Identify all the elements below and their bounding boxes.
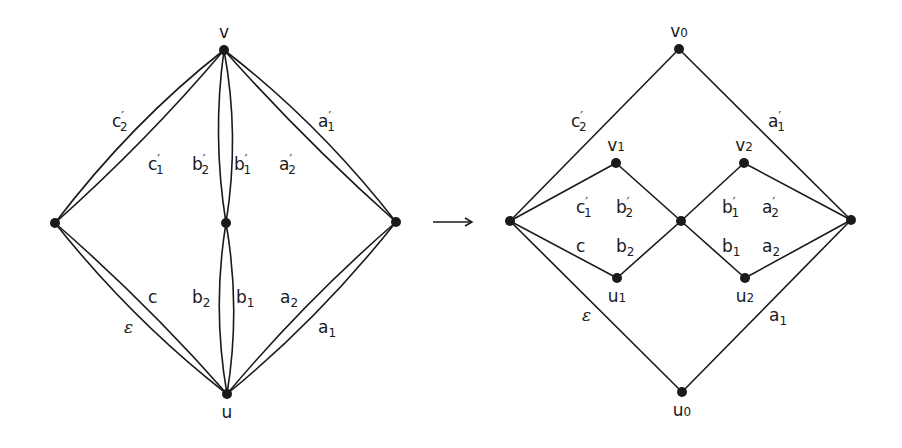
right-edge-label: b′2 (616, 195, 633, 220)
right-vertex-u0 (677, 387, 687, 397)
right-vertex-label-u0: u0 (673, 400, 691, 420)
right-edge-label: a′1 (768, 109, 785, 134)
transformation-arrow (433, 218, 472, 226)
right-vertex-v2 (739, 158, 749, 168)
right-edge-label: a1 (769, 305, 787, 328)
left-edge-label: a′2 (279, 152, 296, 177)
right-vertex-label-v0: v0 (670, 21, 688, 41)
right-vertex-u1 (612, 273, 622, 283)
right-edge-label: c′1 (576, 195, 592, 220)
right-vertex-middle (676, 216, 686, 226)
right-edge-label: c′2 (571, 109, 587, 134)
left-edge-label: b1 (236, 287, 254, 310)
right-vertex-v0 (674, 44, 684, 54)
right-vertex-left (505, 216, 515, 226)
right-edge-label: b2 (616, 236, 634, 259)
right-vertex-right (846, 215, 856, 225)
left-vertex-u (222, 389, 232, 399)
left-edge-label: a′1 (318, 109, 335, 134)
right-vertex-label-u2: u2 (736, 286, 754, 306)
left-vertex-right (391, 217, 401, 227)
right-edge-label: b′1 (722, 195, 739, 220)
right-edge-label: a2 (762, 236, 780, 259)
left-vertex-middle (221, 218, 231, 228)
right-vertex-label-v2: v2 (735, 135, 753, 155)
left-graph-vertices: vu (50, 22, 401, 422)
graph-transformation-diagram: vu v0u0v1v2u1u2 c′2c′1b′2b′1a′2a′1cεb2b1… (0, 0, 902, 448)
right-edge-label: b1 (722, 236, 740, 259)
right-edge-label: a′2 (762, 195, 779, 220)
left-edge-label: a2 (280, 287, 298, 310)
left-edge-label: c (148, 287, 157, 307)
left-vertex-v (219, 45, 229, 55)
right-vertex-u2 (740, 273, 750, 283)
right-edge-label: c (576, 236, 585, 256)
right-graph-vertices: v0u0v1v2u1u2 (505, 21, 856, 420)
right-vertex-label-u1: u1 (608, 286, 626, 306)
left-edge-label: c′2 (112, 109, 128, 134)
right-edge-label: ε (582, 305, 591, 325)
left-edge-label: b′2 (192, 152, 209, 177)
left-vertex-left (50, 218, 60, 228)
left-edge-label: b2 (192, 287, 210, 310)
right-vertex-v1 (611, 158, 621, 168)
left-vertex-label-u: u (222, 402, 233, 422)
left-edge-label: a1 (318, 317, 336, 340)
left-edge-label: b′1 (234, 152, 251, 177)
left-vertex-label-v: v (219, 22, 229, 42)
right-vertex-label-v1: v1 (607, 135, 625, 155)
left-edge-label: c′1 (148, 152, 164, 177)
left-edge-label: ε (124, 317, 133, 337)
